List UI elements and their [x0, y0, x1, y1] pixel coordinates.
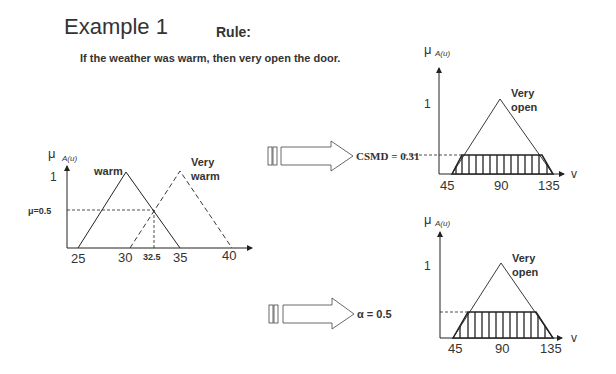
- x-tick-90: 90: [495, 341, 509, 356]
- y-axis-sub: A(u): [61, 154, 77, 163]
- clipped-area: [452, 155, 553, 174]
- x-axis-label: v: [571, 331, 577, 345]
- warm-label: warm: [93, 165, 123, 177]
- x-tick-135: 135: [540, 341, 562, 356]
- y-axis-label: μ: [424, 212, 432, 227]
- set-label-2: open: [512, 266, 539, 278]
- fuzzy-diagram: μ A(u) 1 μ=0.5 warm Very warm 25 30 32.5…: [0, 0, 616, 374]
- csmd-label: CSMD = 0.31: [356, 150, 419, 162]
- y-tick-1: 1: [424, 259, 431, 273]
- x-tick-35: 35: [173, 250, 187, 265]
- very-warm-set: [130, 171, 232, 248]
- alpha-label: α = 0.5: [357, 308, 392, 320]
- y-axis-label: μ: [48, 146, 56, 161]
- mu-label: μ=0.5: [28, 206, 51, 216]
- x-tick-90: 90: [494, 178, 508, 193]
- right-top-chart: μ A(u) v 1 Very open 45 90 135: [404, 42, 577, 193]
- x-tick-32-5: 32.5: [143, 252, 161, 262]
- right-bottom-chart: μ A(u) v 1 Very open 45 90 135: [424, 212, 577, 356]
- y-axis-label: μ: [424, 42, 432, 57]
- x-tick-45: 45: [440, 178, 454, 193]
- set-label-2: open: [511, 101, 538, 113]
- csmd-arrow: CSMD = 0.31: [268, 141, 419, 171]
- very-warm-label-2: warm: [190, 170, 220, 182]
- very-warm-label-1: Very: [191, 156, 215, 168]
- y-axis-sub: A(u): [434, 49, 450, 58]
- x-tick-25: 25: [71, 251, 85, 266]
- x-tick-30: 30: [118, 250, 132, 265]
- y-tick-1: 1: [50, 170, 57, 184]
- y-tick-1: 1: [424, 97, 431, 111]
- left-chart: μ A(u) 1 μ=0.5 warm Very warm 25 30 32.5…: [28, 146, 252, 266]
- alpha-arrow: α = 0.5: [269, 298, 392, 329]
- x-tick-135: 135: [538, 178, 560, 193]
- x-tick-45: 45: [448, 341, 462, 356]
- y-axis-sub: A(u): [434, 219, 450, 228]
- x-axis-label: v: [571, 167, 577, 181]
- set-label-1: Very: [511, 87, 535, 99]
- x-tick-40: 40: [222, 248, 236, 263]
- set-label-1: Very: [512, 252, 536, 264]
